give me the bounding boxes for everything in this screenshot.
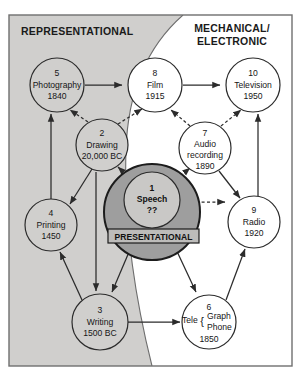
media-evolution-diagram: 1 Speech ?? PRESENTATIONAL 5 Photography…	[0, 0, 303, 379]
node-radio-number: 9	[252, 205, 257, 215]
node-telegraph-telephone-name-b: Phone	[207, 322, 232, 332]
node-photography[interactable]: 5 Photography 1840	[30, 58, 84, 112]
node-television-date: 1950	[243, 91, 262, 101]
node-writing-number: 3	[98, 305, 103, 315]
node-radio-date: 1920	[244, 228, 263, 238]
node-television-number: 10	[248, 68, 258, 78]
node-film[interactable]: 8 Film 1915	[128, 58, 182, 112]
node-radio-name: Radio	[243, 217, 266, 227]
node-printing-name: Printing	[36, 220, 65, 230]
node-radio[interactable]: 9 Radio 1920	[228, 196, 280, 248]
node-photography-number: 5	[55, 68, 60, 78]
node-telegraph-telephone-name-a: Graph	[207, 311, 231, 321]
speech-number: 1	[150, 183, 155, 193]
node-audio-recording-number: 7	[203, 128, 208, 138]
diagram-canvas: 1 Speech ?? PRESENTATIONAL 5 Photography…	[0, 0, 303, 379]
node-writing-date: 1500 BC	[83, 328, 116, 338]
speech-name: Speech	[137, 194, 168, 204]
node-drawing-date: 20,000 BC	[82, 151, 123, 161]
node-television[interactable]: 10 Television 1950	[226, 58, 280, 112]
brace-icon: {	[200, 315, 204, 327]
region-label-mechanical-line2: ELECTRONIC	[197, 35, 267, 47]
node-television-name: Television	[234, 80, 272, 90]
node-printing-number: 4	[49, 208, 54, 218]
region-label-mechanical-line1: MECHANICAL/	[194, 22, 270, 34]
node-drawing[interactable]: 2 Drawing 20,000 BC	[76, 119, 128, 171]
node-telegraph-telephone-date: 1850	[199, 334, 218, 344]
region-label-representational: REPRESENTATIONAL	[21, 25, 134, 37]
node-printing-date: 1450	[41, 231, 60, 241]
speech-date: ??	[147, 205, 158, 215]
node-film-number: 8	[153, 68, 158, 78]
node-film-name: Film	[147, 80, 163, 90]
node-telegraph-telephone-prefix: Tele	[182, 315, 198, 325]
node-audio-recording-name: Audio	[194, 139, 216, 149]
node-drawing-number: 2	[100, 128, 105, 138]
node-photography-name: Photography	[33, 80, 82, 90]
node-writing-name: Writing	[87, 317, 114, 327]
node-printing[interactable]: 4 Printing 1450	[25, 199, 77, 251]
presentational-label: PRESENTATIONAL	[114, 232, 192, 242]
node-audio-recording[interactable]: 7 Audio recording 1890	[179, 122, 231, 174]
node-film-date: 1915	[145, 91, 164, 101]
node-telegraph-telephone[interactable]: 6 Tele { Graph Phone 1850	[182, 295, 236, 349]
node-audio-recording-name2: recording	[187, 150, 223, 160]
node-writing[interactable]: 3 Writing 1500 BC	[72, 294, 128, 350]
node-photography-date: 1840	[47, 91, 66, 101]
node-drawing-name: Drawing	[86, 140, 118, 150]
node-audio-recording-date: 1890	[195, 161, 214, 171]
